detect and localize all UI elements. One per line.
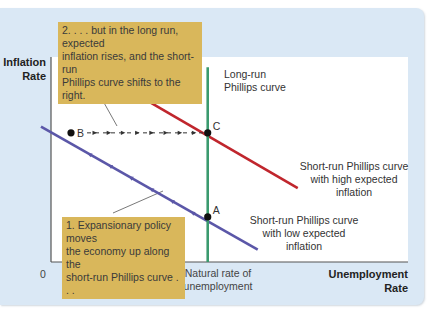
natural-rate-tick-label: Natural rate of unemployment <box>178 267 258 293</box>
annotation-expansionary: 1. Expansionary policy moves the economy… <box>62 217 185 299</box>
natural-rate-text: Natural rate of unemployment <box>178 267 258 293</box>
annotation-long-run: 2. . . . but in the long run, expected i… <box>58 22 202 104</box>
origin-label: 0 <box>37 268 49 281</box>
srpc-high-label-line2: with high expected <box>294 173 414 186</box>
srpc-low-label-line2: with low expected <box>244 227 364 240</box>
point-label-b: B <box>77 127 84 139</box>
srpc-low-label: Short-run Phillips curve with low expect… <box>244 214 364 253</box>
x-axis-label-line1: Unemployment <box>300 267 408 281</box>
lrpc-label-line1: Long-run <box>224 68 294 81</box>
lrpc-label: Long-run Phillips curve <box>224 68 294 94</box>
point-label-c: C <box>213 120 221 132</box>
point-a <box>204 213 211 220</box>
srpc-low-label-line1: Short-run Phillips curve <box>244 214 364 227</box>
point-b <box>67 129 74 136</box>
point-label-a: A <box>213 204 220 216</box>
point-c <box>204 129 211 136</box>
annotation-2-line3: Phillips curve shifts to the right. <box>62 76 198 102</box>
srpc-high-label-line1: Short-run Phillips curve <box>294 160 414 173</box>
srpc-low-label-line3: inflation <box>244 240 364 253</box>
y-axis-label-line1: Inflation <box>0 55 46 69</box>
annotation-1-line3: short-run Phillips curve . . . <box>66 271 181 297</box>
annotation-1-line1: 1. Expansionary policy moves <box>66 219 181 245</box>
y-axis-label: Inflation Rate <box>0 55 46 83</box>
srpc-high-label: Short-run Phillips curve with high expec… <box>294 160 414 199</box>
lrpc-label-line2: Phillips curve <box>224 81 294 94</box>
x-axis-label-line2: Rate <box>300 281 408 295</box>
annotation-1-line2: the economy up along the <box>66 245 181 271</box>
annotation-2-line2: inflation rises, and the short-run <box>62 50 198 76</box>
x-axis-label: Unemployment Rate <box>300 267 408 295</box>
annotation-2-line1: 2. . . . but in the long run, expected <box>62 24 198 50</box>
y-axis-label-line2: Rate <box>0 69 46 83</box>
srpc-high-label-line3: inflation <box>294 186 414 199</box>
